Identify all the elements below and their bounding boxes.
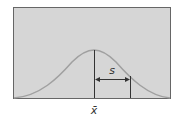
std-dev-label: s: [109, 64, 115, 77]
mean-label: x̄: [90, 104, 98, 117]
normal-distribution-diagram: s x̄: [0, 0, 180, 121]
plot-frame: [14, 8, 171, 99]
